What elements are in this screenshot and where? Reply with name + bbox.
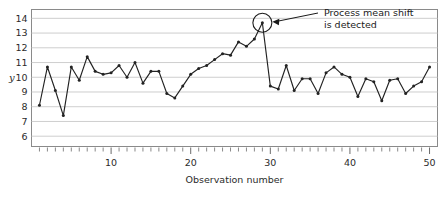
data-point-1 xyxy=(38,104,41,107)
y-tick-label-7: 7 xyxy=(21,116,27,127)
y-tick-label-11: 11 xyxy=(15,57,27,68)
data-point-23 xyxy=(213,58,216,61)
observation-number-line-chart: 67891011121314 1020304050 Process mean s… xyxy=(0,0,448,197)
y-axis-title: y xyxy=(8,72,15,83)
data-point-47 xyxy=(404,92,407,95)
y-tick-label-13: 13 xyxy=(15,27,27,38)
y-tick-labels: 67891011121314 xyxy=(15,13,27,142)
data-point-38 xyxy=(333,65,336,68)
data-point-20 xyxy=(189,73,192,76)
data-point-16 xyxy=(157,70,160,73)
x-tick-label-30: 30 xyxy=(264,157,276,168)
data-point-39 xyxy=(340,73,343,76)
x-tick-label-20: 20 xyxy=(185,157,197,168)
data-point-9 xyxy=(102,73,105,76)
data-point-4 xyxy=(62,114,65,117)
y-tick-label-10: 10 xyxy=(15,72,27,83)
data-point-10 xyxy=(110,71,113,74)
data-point-31 xyxy=(277,88,280,91)
data-point-7 xyxy=(86,55,89,58)
y-tick-label-9: 9 xyxy=(21,86,27,97)
data-point-26 xyxy=(237,40,240,43)
data-point-43 xyxy=(372,80,375,83)
data-point-41 xyxy=(356,95,359,98)
data-point-13 xyxy=(133,61,136,64)
data-point-28 xyxy=(253,37,256,40)
data-point-37 xyxy=(325,71,328,74)
data-point-12 xyxy=(126,76,129,79)
data-point-6 xyxy=(78,79,81,82)
chart-figure: 67891011121314 1020304050 Process mean s… xyxy=(0,0,448,197)
data-point-35 xyxy=(309,77,312,80)
data-point-2 xyxy=(46,65,49,68)
data-point-14 xyxy=(141,82,144,85)
data-point-36 xyxy=(317,92,320,95)
plot-frame xyxy=(32,10,438,147)
data-point-45 xyxy=(388,79,391,82)
plot-background xyxy=(32,10,438,147)
annotation-text-line-2: is detected xyxy=(324,19,377,30)
x-tick-labels: 1020304050 xyxy=(105,157,436,168)
annotation-text-line-1: Process mean shift xyxy=(324,7,414,18)
data-point-34 xyxy=(301,77,304,80)
y-tick-label-14: 14 xyxy=(15,13,27,24)
x-tick-label-40: 40 xyxy=(344,157,356,168)
data-point-48 xyxy=(412,85,415,88)
data-point-15 xyxy=(149,70,152,73)
data-point-27 xyxy=(245,45,248,48)
data-point-30 xyxy=(269,85,272,88)
data-point-22 xyxy=(205,64,208,67)
data-point-50 xyxy=(428,65,431,68)
data-point-46 xyxy=(396,77,399,80)
data-point-25 xyxy=(229,54,232,57)
data-point-40 xyxy=(348,76,351,79)
y-tick-label-6: 6 xyxy=(21,131,27,142)
data-point-5 xyxy=(70,65,73,68)
data-point-44 xyxy=(380,99,383,102)
x-tick-label-50: 50 xyxy=(423,157,435,168)
data-point-32 xyxy=(285,64,288,67)
data-point-29 xyxy=(261,21,264,24)
x-tick-label-10: 10 xyxy=(105,157,117,168)
data-point-17 xyxy=(165,92,168,95)
x-minor-ticks xyxy=(39,148,421,152)
data-point-11 xyxy=(118,64,121,67)
x-axis-title: Observation number xyxy=(186,174,284,185)
data-point-3 xyxy=(54,89,57,92)
data-point-49 xyxy=(420,80,423,83)
data-point-33 xyxy=(293,89,296,92)
data-point-42 xyxy=(364,77,367,80)
y-tick-label-8: 8 xyxy=(21,101,27,112)
data-point-18 xyxy=(173,96,176,99)
data-point-24 xyxy=(221,52,224,55)
data-point-19 xyxy=(181,85,184,88)
data-point-21 xyxy=(197,67,200,70)
y-tick-label-12: 12 xyxy=(15,42,27,53)
data-point-8 xyxy=(94,70,97,73)
